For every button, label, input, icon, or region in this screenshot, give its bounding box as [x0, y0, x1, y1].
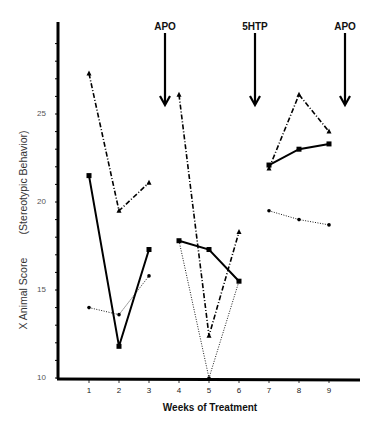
circle-marker	[237, 279, 241, 283]
y-tick-label: 10	[22, 373, 46, 382]
triangle-marker	[147, 180, 152, 185]
circle-marker	[327, 223, 331, 227]
circle-marker	[147, 274, 151, 278]
circle-marker	[177, 239, 181, 243]
series-circle	[87, 209, 331, 380]
triangle-marker	[207, 333, 212, 338]
x-tick-label: 8	[297, 386, 301, 395]
square-marker	[327, 141, 332, 146]
series-square	[87, 141, 332, 348]
y-axis-label-sub: (Stereotypic Behavior)	[17, 130, 29, 234]
circle-marker	[297, 218, 301, 222]
triangle-marker	[87, 71, 92, 76]
square-marker	[117, 344, 122, 349]
circle-marker	[87, 306, 91, 310]
triangle-marker	[177, 92, 182, 97]
y-tick-label: 25	[22, 109, 46, 118]
x-tick-label: 5	[207, 386, 211, 395]
x-tick-label: 7	[267, 386, 271, 395]
y-tick-label: 15	[22, 285, 46, 294]
square-marker	[297, 147, 302, 152]
circle-marker	[267, 209, 271, 213]
annotation-label: APO	[334, 21, 356, 32]
triangle-marker	[297, 92, 302, 97]
x-tick-label: 9	[327, 386, 331, 395]
y-axis-label: X Animal Score (Stereotypic Behavior)	[8, 100, 38, 360]
square-marker	[87, 173, 92, 178]
x-axis-label: Weeks of Treatment	[0, 402, 380, 413]
x-tick-label: 4	[177, 386, 181, 395]
circle-marker	[117, 313, 121, 317]
circle-marker	[207, 376, 211, 380]
y-tick-label: 20	[22, 197, 46, 206]
x-tick-label: 3	[147, 386, 151, 395]
square-marker	[147, 247, 152, 252]
annotation-arrows	[160, 33, 350, 105]
line-chart	[0, 0, 380, 432]
x-tick-label: 6	[237, 386, 241, 395]
series-triangle	[87, 71, 332, 338]
x-tick-label: 2	[117, 386, 121, 395]
triangle-marker	[237, 229, 242, 234]
square-marker	[207, 247, 212, 252]
x-tick-label: 1	[87, 386, 91, 395]
annotation-label: APO	[154, 21, 176, 32]
series-layer	[87, 71, 332, 380]
annotation-label: 5HTP	[242, 21, 268, 32]
